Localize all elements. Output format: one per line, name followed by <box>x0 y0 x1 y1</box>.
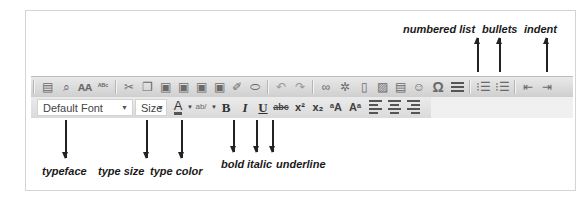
align-center-icon <box>388 100 401 114</box>
underline-button[interactable]: U <box>255 99 271 115</box>
arrow-typeface <box>65 120 67 158</box>
grow-font-icon: Aᵃ <box>349 102 361 113</box>
shrink-font-button[interactable]: ᵃA <box>328 99 344 115</box>
clean-format-icon[interactable]: ✐ <box>229 79 245 95</box>
annotation-bullets: bullets <box>482 23 517 35</box>
paste-word-icon[interactable]: ▣ <box>193 79 209 95</box>
annotation-type-size: type size <box>98 165 144 177</box>
annotation-italic: italic <box>247 158 272 170</box>
align-right-icon <box>407 100 420 114</box>
annotation-underline: underline <box>276 158 326 170</box>
paste-text-icon[interactable]: ▣ <box>175 79 191 95</box>
paste-special-icon[interactable]: ▣ <box>211 79 227 95</box>
arrow-bold <box>233 120 235 152</box>
separator <box>312 80 314 94</box>
outdent-icon[interactable]: ⇤ <box>520 79 536 95</box>
horizontal-rule-icon[interactable] <box>449 79 465 95</box>
highlight-button[interactable]: ab/ <box>193 99 209 115</box>
align-left-button[interactable] <box>367 99 383 115</box>
arrow-type-color <box>181 120 183 158</box>
strikethrough-icon: abc <box>273 103 289 112</box>
text-color-button[interactable]: A <box>170 99 186 115</box>
chevron-down-icon: ▼ <box>121 104 128 111</box>
chevron-down-icon: ▼ <box>157 104 164 111</box>
underline-icon: U <box>258 101 267 114</box>
annotation-bold: bold <box>221 158 244 170</box>
separator <box>115 80 117 94</box>
text-color-icon: A <box>174 99 183 115</box>
annotation-typeface: typeface <box>42 165 87 177</box>
toolbar-grip <box>33 80 35 94</box>
grow-font-button[interactable]: Aᵃ <box>347 99 363 115</box>
arrow-numbered-list <box>477 38 479 72</box>
font-select-value: Default Font <box>43 102 103 114</box>
image-icon[interactable]: ▨ <box>374 79 390 95</box>
align-center-button[interactable] <box>386 99 402 115</box>
highlight-dropdown-icon[interactable]: ▼ <box>211 104 217 110</box>
subscript-button[interactable]: x₂ <box>310 99 326 115</box>
highlight-icon: ab/ <box>195 103 206 111</box>
arrow-italic <box>256 120 258 152</box>
italic-button[interactable]: I <box>237 99 253 115</box>
align-left-icon <box>369 100 382 114</box>
toolbar-row-2: Default Font ▼ Size ▼ A ▼ ab/ ▼ B I U ab… <box>31 97 573 118</box>
redo-icon[interactable]: ↷ <box>292 79 308 95</box>
annotation-type-color: type color <box>150 165 203 177</box>
copy-icon[interactable]: ❐ <box>139 79 155 95</box>
arrow-bullets <box>499 38 501 72</box>
separator <box>514 80 516 94</box>
arrow-type-size <box>146 120 148 158</box>
subscript-icon: x₂ <box>312 102 323 113</box>
paste-icon[interactable]: ▣ <box>157 79 173 95</box>
font-select[interactable]: Default Font ▼ <box>37 99 133 116</box>
indent-icon[interactable]: ⇥ <box>539 79 555 95</box>
print-icon[interactable]: ▤ <box>39 79 55 95</box>
numbered-list-icon[interactable]: ⁝☰ <box>475 79 491 95</box>
toolbar-row-2-main: Default Font ▼ Size ▼ A ▼ ab/ ▼ B I U ab… <box>31 97 431 118</box>
find-icon[interactable]: ᴀᴀ <box>77 79 93 95</box>
spellcheck-icon[interactable]: ᴬᴮᶜ <box>95 79 111 95</box>
toolbar-row-1: ▤ ⌕ ᴀᴀ ᴬᴮᶜ ✂ ❐ ▣ ▣ ▣ ▣ ✐ ⬭ ↶ ↷ ∞ ✲ ▯ ▨ ▤… <box>31 76 573 98</box>
eraser-icon[interactable]: ⬭ <box>247 79 263 95</box>
flash-icon[interactable]: ▤ <box>392 79 408 95</box>
bold-icon: B <box>222 101 231 114</box>
superscript-icon: x² <box>295 102 305 113</box>
size-select[interactable]: Size ▼ <box>135 99 167 116</box>
annotation-numbered-list: numbered list <box>403 23 475 35</box>
superscript-button[interactable]: x² <box>292 99 308 115</box>
annotation-indent: indent <box>524 23 557 35</box>
separator <box>267 80 269 94</box>
preview-icon[interactable]: ⌕ <box>58 79 74 95</box>
italic-icon: I <box>242 101 247 114</box>
unlink-icon[interactable]: ✲ <box>337 79 353 95</box>
arrow-indent <box>546 38 548 72</box>
bulleted-list-icon[interactable]: ⁝☰ <box>494 79 510 95</box>
align-right-button[interactable] <box>405 99 421 115</box>
strikethrough-button[interactable]: abc <box>273 99 289 115</box>
toolbar-row-2-extension <box>431 97 573 118</box>
undo-icon[interactable]: ↶ <box>273 79 289 95</box>
link-icon[interactable]: ∞ <box>318 79 334 95</box>
bold-button[interactable]: B <box>218 99 234 115</box>
cut-icon[interactable]: ✂ <box>121 79 137 95</box>
new-page-icon[interactable]: ▯ <box>356 79 372 95</box>
arrow-underline <box>272 120 274 152</box>
shrink-font-icon: ᵃA <box>330 102 342 113</box>
separator <box>469 80 471 94</box>
smiley-icon[interactable]: ☺ <box>411 79 427 95</box>
special-char-icon[interactable]: Ω <box>430 79 446 95</box>
